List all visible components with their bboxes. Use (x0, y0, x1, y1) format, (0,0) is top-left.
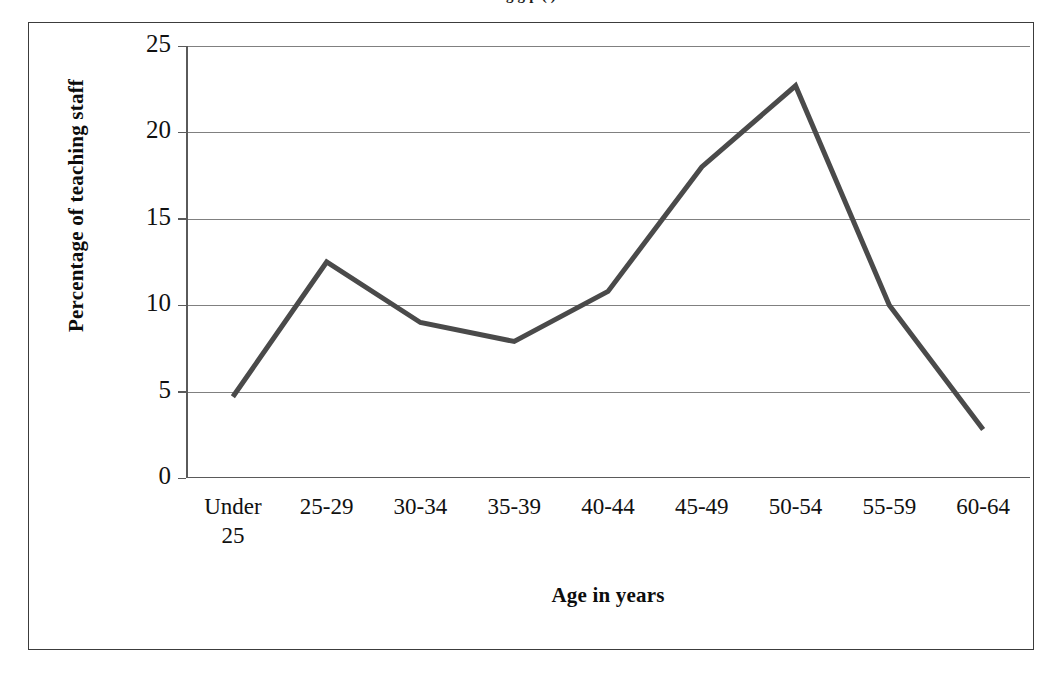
y-tick-label-25: 25 (146, 31, 171, 56)
x-axis-title: Age in years (186, 583, 1030, 608)
x-tick-label-60-64: 60-64 (923, 493, 1043, 522)
y-tick-mark-15 (178, 218, 186, 220)
line-series (186, 46, 1030, 478)
y-tick-mark-5 (178, 391, 186, 393)
y-tick-mark-25 (178, 46, 186, 48)
y-tick-mark-10 (178, 305, 186, 307)
y-tick-label-15: 15 (146, 204, 171, 229)
y-tick-label-10: 10 (146, 290, 171, 315)
y-tick-mark-20 (178, 132, 186, 134)
y-tick-label-20: 20 (146, 117, 171, 142)
plot-area (186, 46, 1030, 478)
y-axis-tick-labels: 0510152025 (119, 46, 171, 478)
y-tick-mark-0 (178, 478, 186, 480)
x-axis-tick-labels: Under2525-2930-3435-3940-4445-4950-5455-… (186, 493, 1030, 573)
figure-caption-partial: g g p ( ) (0, 0, 1062, 7)
y-axis-title: Percentage of teaching staff (64, 0, 89, 416)
figure-frame: Percentage of teaching staff 0510152025 … (28, 22, 1034, 650)
y-tick-label-5: 5 (159, 377, 172, 402)
y-tick-label-0: 0 (159, 463, 172, 488)
